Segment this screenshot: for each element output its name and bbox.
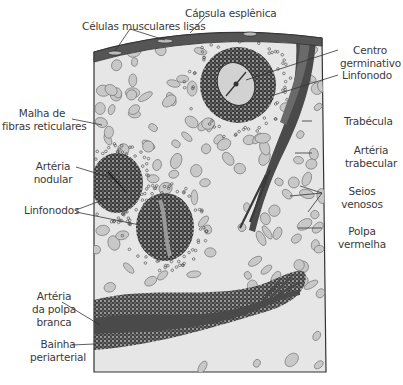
label-line: fibras reticulares: [2, 120, 82, 133]
lymphocyte-dot: [79, 170, 82, 173]
lymphocyte-dot: [82, 163, 85, 166]
red-pulp-cell: [191, 190, 198, 205]
lymphocyte-dot: [88, 207, 91, 210]
label-line: Artéria: [340, 144, 402, 157]
label-line: Malha de: [2, 107, 82, 120]
label-line: Seios: [334, 185, 390, 198]
label-line: Artéria: [32, 290, 76, 303]
lymphocyte-dot: [86, 189, 89, 192]
label-line: vermelha: [334, 238, 390, 251]
label-polpa-vermelha: Polpa vermelha: [334, 225, 390, 251]
label-line: Bainha: [30, 338, 86, 351]
label-line: Centro: [340, 44, 400, 57]
label-line: Artéria: [28, 160, 78, 173]
lymph-node-left: [91, 153, 143, 213]
red-pulp-cell: [129, 74, 137, 87]
label-arteria-polpa-branca: Artéria da polpa branca: [32, 290, 76, 329]
label-arteria-trabecular: Artéria trabecular: [340, 144, 402, 170]
label-seios-venosos: Seios venosos: [334, 185, 390, 211]
spleen-diagram: Cápsula esplênica Células musculares lis…: [0, 0, 403, 385]
label-malha-fibras-reticulares: Malha de fibras reticulares: [2, 107, 82, 133]
lymphocyte-dot: [91, 209, 94, 212]
label-line: trabecular: [340, 157, 402, 170]
label-line: venosos: [334, 198, 390, 211]
label-linfonodos: Linfonodos: [24, 204, 79, 217]
lymphocyte-dot: [82, 164, 85, 167]
label-arteria-nodular: Artéria nodular: [28, 160, 78, 186]
label-centro-germinativo: Centro germinativo: [340, 44, 400, 70]
label-celulas-musculares-lisas: Células musculares lisas: [82, 20, 205, 33]
red-pulp-cell: [95, 102, 106, 115]
lymphocyte-dot: [80, 199, 83, 202]
lymphocyte-dot: [85, 164, 88, 167]
lymphocyte-dot: [90, 164, 93, 167]
label-linfonodo: Linfonodo: [342, 69, 392, 82]
label-line: nodular: [28, 173, 78, 186]
label-line: periarterial: [30, 351, 86, 364]
label-bainha-periarterial: Bainha periarterial: [30, 338, 86, 364]
label-line: branca: [32, 316, 76, 329]
red-pulp-cell: [187, 81, 197, 96]
label-line: Polpa: [334, 225, 390, 238]
label-trabecula: Trabécula: [344, 115, 393, 128]
lymphocyte-dot: [85, 189, 88, 192]
label-line: da polpa: [32, 303, 76, 316]
lymphocyte-dot: [86, 180, 89, 183]
label-capsula-esplenica: Cápsula esplênica: [185, 7, 277, 20]
lymphocyte-dot: [83, 189, 86, 192]
lymphocyte-dot: [82, 160, 85, 163]
